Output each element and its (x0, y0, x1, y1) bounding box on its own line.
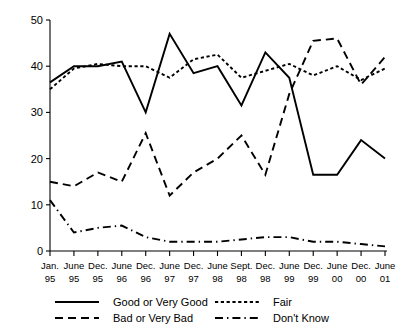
x-tick-label-month: Jan. (41, 260, 59, 271)
legend-label-1: Fair (273, 296, 292, 308)
y-tick-label: 0 (37, 245, 43, 257)
series-lines (50, 34, 385, 247)
x-tick-label-year: 01 (380, 273, 391, 284)
chart-legend: Good or Very GoodFairBad or Very BadDon'… (55, 296, 329, 324)
x-tick-label-month: Dec. (88, 260, 108, 271)
x-tick-label-year: 97 (188, 273, 199, 284)
x-tick-label-month: Sept. (230, 260, 252, 271)
x-tick-label-month: June (327, 260, 348, 271)
x-tick-label-year: 98 (236, 273, 247, 284)
x-tick-label-year: 95 (93, 273, 104, 284)
x-tick-label-month: June (159, 260, 180, 271)
x-tick-label-year: 98 (260, 273, 271, 284)
x-tick-label-month: Dec. (303, 260, 323, 271)
x-tick-label-year: 00 (356, 273, 367, 284)
x-tick-label-year: 98 (212, 273, 223, 284)
x-tick-label-year: 95 (69, 273, 80, 284)
x-axis-labels: Jan.95June95Dec.95June96Dec.96June97Dec.… (41, 260, 395, 284)
chart-canvas: 01020304050 Jan.95June95Dec.95June96Dec.… (0, 0, 415, 333)
x-axis (50, 251, 387, 256)
x-tick-label-year: 95 (45, 273, 56, 284)
x-tick-label-month: Dec. (351, 260, 371, 271)
x-tick-label-month: Dec. (184, 260, 204, 271)
x-tick-label-month: Dec. (136, 260, 156, 271)
x-tick-label-year: 97 (164, 273, 175, 284)
x-tick-label-year: 96 (116, 273, 127, 284)
series-line-3 (50, 200, 385, 246)
series-line-2 (50, 38, 385, 195)
y-axis: 01020304050 (31, 14, 50, 257)
x-tick-label-month: June (375, 260, 396, 271)
x-tick-label-year: 99 (284, 273, 295, 284)
x-tick-label-year: 99 (308, 273, 319, 284)
x-tick-label-month: June (207, 260, 228, 271)
y-tick-label: 20 (31, 153, 43, 165)
series-line-1 (50, 55, 385, 90)
legend-label-3: Don't Know (273, 312, 329, 324)
series-line-0 (50, 34, 385, 175)
legend-label-2: Bad or Very Bad (113, 312, 193, 324)
y-tick-label: 30 (31, 106, 43, 118)
x-tick-label-year: 96 (140, 273, 151, 284)
y-tick-label: 10 (31, 199, 43, 211)
legend-label-0: Good or Very Good (113, 296, 208, 308)
x-tick-label-month: Dec. (256, 260, 276, 271)
x-tick-label-month: June (64, 260, 85, 271)
y-tick-label: 40 (31, 60, 43, 72)
x-tick-label-year: 00 (332, 273, 343, 284)
x-tick-label-month: June (279, 260, 300, 271)
y-tick-label: 50 (31, 14, 43, 26)
x-tick-label-month: June (111, 260, 132, 271)
line-chart: 01020304050 Jan.95June95Dec.95June96Dec.… (0, 0, 415, 333)
